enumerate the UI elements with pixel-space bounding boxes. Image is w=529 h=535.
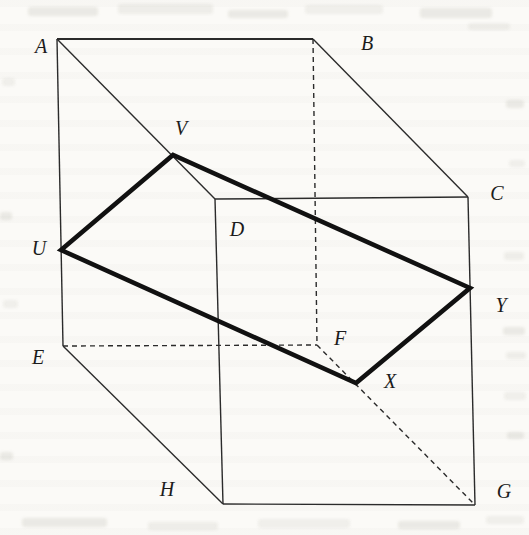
cross-section-UVYX <box>61 155 470 383</box>
vertex-label-V: V <box>175 117 190 139</box>
vertex-label-A: A <box>33 35 48 57</box>
vertex-label-F: F <box>333 327 347 349</box>
vertex-label-Y: Y <box>495 294 508 316</box>
edge-GH <box>223 504 475 505</box>
edge-EA <box>57 39 63 346</box>
vertex-label-U: U <box>32 237 48 259</box>
edge-HE <box>63 346 223 504</box>
edge-BC <box>313 39 468 197</box>
vertex-label-E: E <box>31 346 44 368</box>
scanned-textbook-page: ABCDEFGHUVXY <box>0 0 529 535</box>
edge-BF-hidden <box>313 39 317 345</box>
edge-DH <box>215 199 223 504</box>
vertex-label-G: G <box>497 480 512 502</box>
vertex-label-B: B <box>361 32 373 54</box>
edge-DC <box>215 197 468 199</box>
edge-FG-hidden <box>317 345 475 505</box>
vertex-label-C: C <box>490 182 504 204</box>
edge-AD <box>57 39 215 199</box>
edge-CG <box>468 197 475 505</box>
cube-cross-section-figure: ABCDEFGHUVXY <box>0 0 529 535</box>
vertex-label-D: D <box>229 218 245 240</box>
vertex-label-H: H <box>159 478 176 500</box>
vertex-label-X: X <box>383 370 397 392</box>
